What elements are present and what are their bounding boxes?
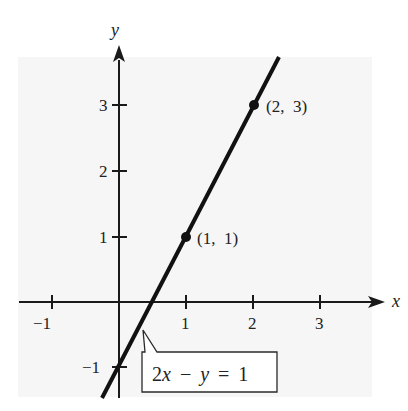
y-tick-label-2: 2: [99, 162, 108, 181]
plot-background: [18, 57, 372, 397]
y-tick-label-1: 1: [99, 228, 108, 247]
point-1-1: [181, 232, 191, 242]
point-2-3: [249, 100, 259, 110]
line-graph: x y −1 1 2 3 3 2 1 −1 (1, 1) (2, 3) 2x−y…: [0, 0, 408, 411]
x-axis-label: x: [391, 291, 400, 311]
y-axis-label: y: [109, 20, 119, 40]
point-label-1-1: (1, 1): [197, 229, 238, 248]
point-label-2-3: (2, 3): [266, 97, 307, 116]
x-tick-label-3: 3: [315, 314, 324, 333]
y-tick-label-3: 3: [99, 96, 108, 115]
y-tick-label-neg1: −1: [82, 358, 100, 377]
x-tick-label-1: 1: [181, 314, 190, 333]
x-tick-label-neg1: −1: [33, 314, 51, 333]
x-tick-label-2: 2: [248, 314, 257, 333]
